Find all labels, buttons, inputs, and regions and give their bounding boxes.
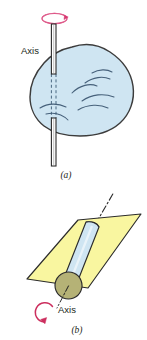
rotation-arrow-a <box>42 13 68 23</box>
blob-shape <box>30 45 133 136</box>
panel-caption-b: (b) <box>71 325 82 336</box>
rigid-body-blob <box>30 45 133 136</box>
panel-b: Axis (b) <box>27 192 141 336</box>
rotation-ellipse-highlight <box>42 13 67 23</box>
physics-rotation-figure: Axis (a) <box>0 0 147 340</box>
panel-a: Axis (a) <box>21 13 133 181</box>
axis-label-a: Axis <box>21 45 39 56</box>
rotation-arrowhead-icon <box>41 318 47 324</box>
figure-container: Axis (a) <box>0 0 147 340</box>
panel-caption-a: (a) <box>60 170 71 181</box>
axis-label-b: Axis <box>58 304 76 315</box>
rotation-arrow-b <box>35 303 52 324</box>
rotation-arrowhead-icon <box>64 15 68 19</box>
